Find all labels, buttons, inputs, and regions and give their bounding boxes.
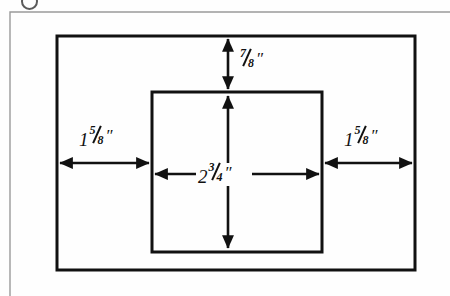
outer-rectangle — [57, 36, 415, 270]
inner-rectangle — [152, 92, 322, 252]
fraction-denominator: 4 — [217, 171, 223, 183]
fraction-denominator: 8 — [363, 134, 369, 146]
inch-mark-top: ″ — [257, 49, 263, 68]
fraction-numerator: 5 — [355, 124, 361, 136]
dimension-label-right-gap: 158″ — [344, 126, 378, 149]
dimension-label-inner-width: 234″ — [196, 163, 234, 186]
fraction-numerator: 3 — [209, 161, 215, 173]
dimension-whole-left: 1 — [79, 129, 89, 150]
dimension-label-top-gap: 78″ — [239, 49, 263, 72]
inch-mark-inner: ″ — [226, 163, 232, 182]
fraction-denominator: 8 — [248, 57, 254, 69]
fraction-numerator: 5 — [90, 124, 96, 136]
dimension-label-left-gap: 158″ — [79, 126, 113, 149]
figure-root: 78″ 158″ 158″ 234″ — [0, 0, 450, 296]
inch-mark-right: ″ — [372, 126, 378, 145]
fraction-right-gap: 58 — [355, 126, 372, 146]
dimension-whole-inner: 2 — [198, 166, 208, 187]
fraction-top-gap: 78 — [240, 49, 257, 69]
dimension-whole-right: 1 — [344, 129, 354, 150]
fraction-left-gap: 58 — [90, 126, 107, 146]
fraction-denominator: 8 — [98, 134, 104, 146]
diagram-canvas — [0, 0, 450, 296]
fraction-inner-width: 34 — [209, 163, 226, 183]
inch-mark-left: ″ — [107, 126, 113, 145]
